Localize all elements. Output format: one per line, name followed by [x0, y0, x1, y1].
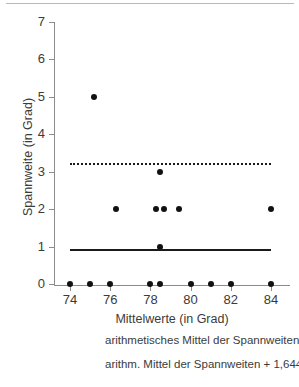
data-point: [113, 206, 119, 212]
y-tick-mark: [49, 284, 54, 285]
data-point: [157, 169, 163, 175]
data-point: [107, 281, 113, 287]
data-point: [228, 281, 234, 287]
y-tick-label: 0: [28, 277, 45, 290]
reference-line-mean: [70, 249, 271, 251]
x-tick-label: 80: [176, 293, 206, 306]
data-point: [268, 206, 274, 212]
y-axis-title: Spannweite (in Grad): [21, 67, 35, 247]
data-point: [161, 206, 167, 212]
x-tick-label: 84: [256, 293, 286, 306]
plot-area: [54, 22, 289, 284]
legend-label-mean: arithmetisches Mittel der Spannweiten: [105, 334, 299, 348]
y-tick-label: 7: [28, 15, 45, 28]
chart-legend: arithmetisches Mittel der Spannweiten ar…: [55, 334, 299, 382]
scatter-chart-figure: 01234567 747678808284 Mittelwerte (in Gr…: [0, 0, 299, 387]
data-point: [157, 281, 163, 287]
data-point: [176, 206, 182, 212]
x-tick-label: 78: [135, 293, 165, 306]
y-tick-label: 6: [28, 52, 45, 65]
x-tick-label: 74: [55, 293, 85, 306]
data-point: [147, 281, 153, 287]
data-point: [67, 281, 73, 287]
legend-label-mean-plus-sigma: arithm. Mittel der Spannweiten + 1,6449 …: [105, 358, 299, 372]
legend-item-mean-plus-sigma: arithm. Mittel der Spannweiten + 1,6449 …: [55, 358, 299, 372]
x-axis-title: Mittelwerte (in Grad): [54, 312, 290, 326]
x-tick-label: 82: [216, 293, 246, 306]
data-point: [91, 94, 97, 100]
data-point: [87, 281, 93, 287]
reference-line-mean-plus-sigma: [70, 163, 271, 165]
data-point: [208, 281, 214, 287]
x-tick-label: 76: [95, 293, 125, 306]
data-point: [153, 206, 159, 212]
data-point: [188, 281, 194, 287]
data-point: [268, 281, 274, 287]
legend-item-mean: arithmetisches Mittel der Spannweiten: [55, 334, 299, 348]
